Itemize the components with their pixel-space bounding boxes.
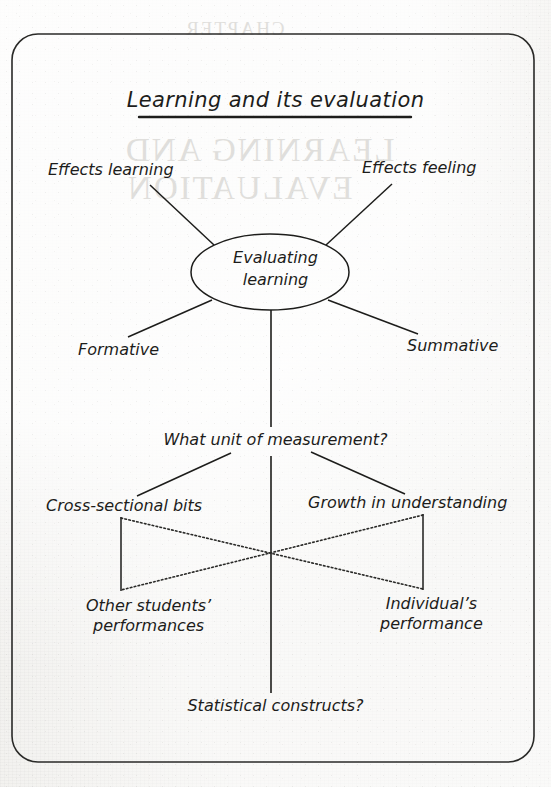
node-other-students-line-2: performances — [86, 616, 211, 636]
diagram-canvas — [0, 0, 551, 787]
connector-center-to-summative — [328, 300, 418, 334]
page-frame-border — [12, 34, 534, 762]
connector-center-to-effects-feeling — [326, 184, 392, 245]
center-node-label-line-2: learning — [201, 269, 351, 291]
page-title: Learning and its evaluation — [127, 88, 425, 114]
node-effects-learning: Effects learning — [48, 160, 174, 180]
connector-unit-to-cross-sectional — [137, 453, 231, 496]
node-individuals-performance: Individual’s performance — [380, 594, 483, 633]
node-other-students-line-1: Other students’ — [86, 596, 211, 616]
center-node-label: Evaluating learning — [201, 247, 351, 290]
node-growth-in-understanding: Growth in understanding — [308, 493, 507, 513]
node-summative: Summative — [407, 336, 498, 356]
center-node-label-line-1: Evaluating — [201, 247, 351, 269]
connector-center-to-effects-learning — [150, 185, 214, 245]
node-effects-feeling: Effects feeling — [362, 158, 477, 178]
node-unit-of-measurement: What unit of measurement? — [163, 430, 387, 450]
node-other-students-performances: Other students’ performances — [86, 596, 211, 635]
node-individual-line-2: performance — [380, 614, 483, 634]
connector-unit-to-growth — [311, 452, 405, 494]
node-cross-sectional-bits: Cross-sectional bits — [46, 496, 202, 516]
node-formative: Formative — [78, 340, 159, 360]
connector-center-to-formative — [128, 300, 212, 337]
node-statistical-constructs: Statistical constructs? — [187, 696, 363, 716]
node-individual-line-1: Individual’s — [380, 594, 483, 614]
